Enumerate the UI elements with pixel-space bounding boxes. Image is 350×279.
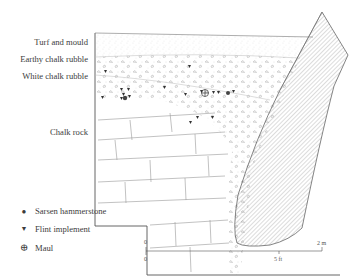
chalk-rock <box>95 98 232 275</box>
maul-symbol <box>202 90 209 97</box>
scale-metric-start: 0 <box>144 239 147 245</box>
label-earthy-chalk-rubble: Earthy chalk rubble <box>20 54 88 64</box>
turf-layer <box>95 33 313 58</box>
filled-circle-icon: ● <box>18 207 30 216</box>
legend-label: Sarsen hammerstone <box>35 206 106 216</box>
scale-metric-end: 2 m <box>317 240 326 246</box>
label-turf-and-mould: Turf and mould <box>34 37 88 47</box>
legend-label: Maul <box>35 243 53 253</box>
label-chalk-rock: Chalk rock <box>50 127 88 137</box>
label-white-chalk-rubble: White chalk rubble <box>22 71 88 81</box>
legend-maul: ⊕ Maul <box>18 242 53 253</box>
circled-plus-icon: ⊕ <box>18 242 30 253</box>
triangle-down-icon: ▼ <box>18 225 30 233</box>
scale-imperial-start: 0 <box>144 256 147 262</box>
legend-label: Flint implement <box>35 224 90 234</box>
legend-flint-implement: ▼ Flint implement <box>18 224 90 234</box>
scale-imperial-mid: 5 ft <box>274 256 282 262</box>
legend-sarsen-hammerstone: ● Sarsen hammerstone <box>18 206 106 216</box>
